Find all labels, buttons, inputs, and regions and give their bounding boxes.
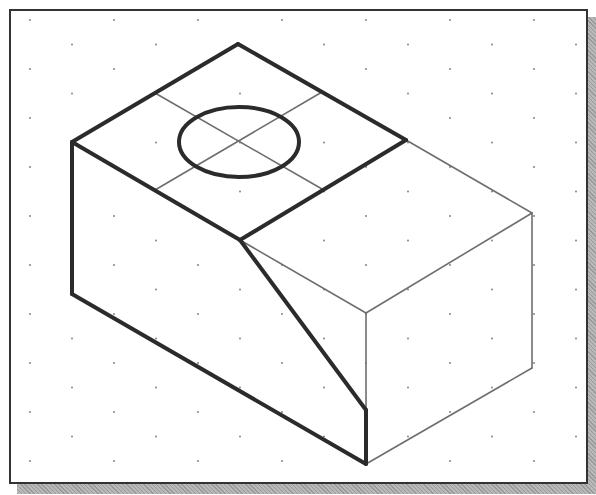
- grid-dot: [449, 68, 451, 70]
- grid-dot: [29, 117, 31, 119]
- grid-dot: [323, 338, 325, 340]
- grid-dot: [491, 387, 493, 389]
- grid-dot: [71, 93, 73, 95]
- grid-dot: [281, 313, 283, 315]
- grid-dot: [197, 460, 199, 462]
- grid-dot: [155, 142, 157, 144]
- grid-dot: [113, 411, 115, 413]
- grid-dot: [407, 191, 409, 193]
- grid-dot: [449, 215, 451, 217]
- grid-dot: [533, 264, 535, 266]
- grid-dot: [323, 387, 325, 389]
- grid-dot: [449, 117, 451, 119]
- grid-dot: [29, 460, 31, 462]
- grid-dot: [533, 68, 535, 70]
- grid-dot: [575, 289, 577, 291]
- grid-dot: [491, 436, 493, 438]
- visible-edge-thin: [406, 140, 532, 213]
- grid-dot: [29, 264, 31, 266]
- grid-dot: [575, 387, 577, 389]
- grid-dot: [449, 313, 451, 315]
- isometric-grid-dots: [29, 19, 577, 462]
- grid-dot: [407, 93, 409, 95]
- grid-dot: [155, 44, 157, 46]
- grid-dot: [407, 387, 409, 389]
- grid-dot: [575, 338, 577, 340]
- grid-dot: [155, 338, 157, 340]
- grid-dot: [197, 313, 199, 315]
- grid-dot: [449, 362, 451, 364]
- grid-dot: [449, 411, 451, 413]
- grid-dot: [491, 240, 493, 242]
- grid-dot: [281, 362, 283, 364]
- grid-dot: [491, 142, 493, 144]
- grid-dot: [449, 19, 451, 21]
- grid-dot: [239, 191, 241, 193]
- grid-dot: [239, 338, 241, 340]
- visible-edge-thick: [72, 142, 240, 240]
- grid-dot: [533, 411, 535, 413]
- grid-dot: [113, 460, 115, 462]
- grid-dot: [533, 19, 535, 21]
- grid-dot: [575, 436, 577, 438]
- grid-dot: [281, 460, 283, 462]
- grid-dot: [533, 362, 535, 364]
- grid-dot: [29, 166, 31, 168]
- grid-dot: [407, 44, 409, 46]
- grid-dot: [365, 68, 367, 70]
- grid-dot: [29, 411, 31, 413]
- grid-dot: [491, 338, 493, 340]
- grid-dot: [575, 142, 577, 144]
- grid-dot: [407, 240, 409, 242]
- grid-dot: [29, 362, 31, 364]
- grid-dot: [29, 19, 31, 21]
- visible-edge-thick: [240, 240, 366, 410]
- visible-edge-thick: [240, 140, 406, 240]
- grid-dot: [113, 215, 115, 217]
- grid-dot: [29, 313, 31, 315]
- grid-dot: [155, 240, 157, 242]
- visible-edge-thin: [240, 240, 366, 313]
- grid-dot: [575, 44, 577, 46]
- grid-dot: [407, 338, 409, 340]
- grid-dot: [281, 19, 283, 21]
- grid-dot: [239, 436, 241, 438]
- grid-dot: [281, 411, 283, 413]
- grid-dot: [575, 191, 577, 193]
- grid-dot: [575, 240, 577, 242]
- grid-dot: [197, 19, 199, 21]
- grid-dot: [491, 93, 493, 95]
- visible-edge-thick: [72, 294, 366, 464]
- grid-dot: [113, 362, 115, 364]
- grid-dot: [533, 460, 535, 462]
- visible-edge-thin: [366, 368, 532, 464]
- grid-dot: [491, 289, 493, 291]
- grid-dot: [491, 44, 493, 46]
- grid-dot: [575, 93, 577, 95]
- grid-dot: [323, 142, 325, 144]
- grid-dot: [71, 338, 73, 340]
- grid-dot: [29, 68, 31, 70]
- grid-dot: [239, 93, 241, 95]
- grid-dot: [407, 436, 409, 438]
- grid-dot: [197, 264, 199, 266]
- grid-dot: [533, 117, 535, 119]
- grid-dot: [113, 313, 115, 315]
- grid-dot: [533, 215, 535, 217]
- grid-dot: [365, 215, 367, 217]
- grid-dot: [113, 264, 115, 266]
- grid-dot: [155, 289, 157, 291]
- visible-edge-thin: [366, 213, 532, 313]
- grid-dot: [239, 289, 241, 291]
- grid-dot: [365, 19, 367, 21]
- grid-dot: [323, 240, 325, 242]
- grid-dot: [155, 387, 157, 389]
- grid-dot: [113, 19, 115, 21]
- thin-edges: [155, 92, 532, 464]
- grid-dot: [29, 215, 31, 217]
- grid-dot: [533, 313, 535, 315]
- grid-dot: [155, 436, 157, 438]
- grid-dot: [197, 411, 199, 413]
- grid-dot: [71, 44, 73, 46]
